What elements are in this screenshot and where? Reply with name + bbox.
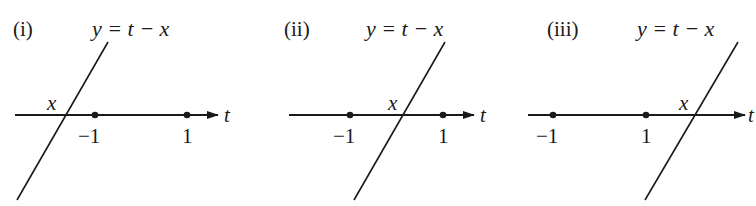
panel-label: (iii)	[547, 17, 579, 41]
equation-label: y = t − x	[364, 16, 444, 41]
tick-dot-1	[643, 112, 650, 119]
figure: (i) y = t − x t x −1 1 (ii) y = t − x t …	[0, 0, 756, 206]
tick-label-minus-1: −1	[78, 124, 100, 148]
tick-dot-1	[440, 112, 447, 119]
tick-dot-minus-1	[347, 112, 354, 119]
panel-i: (i) y = t − x t x −1 1	[13, 16, 231, 200]
equation-label: y = t − x	[90, 16, 170, 41]
tick-dot-minus-1	[550, 112, 557, 119]
intersection-label-x: x	[678, 91, 689, 115]
axis-label-t: t	[480, 103, 487, 127]
tick-label-1: 1	[182, 124, 193, 148]
panel-ii: (ii) y = t − x t x −1 1	[284, 16, 487, 200]
tick-label-minus-1: −1	[536, 124, 558, 148]
panel-label: (ii)	[284, 17, 310, 41]
axis-label-t: t	[748, 103, 755, 127]
tick-label-1: 1	[438, 124, 449, 148]
panel-iii: (iii) y = t − x t x −1 1	[528, 16, 755, 200]
intersection-label-x: x	[387, 91, 398, 115]
axis-label-t: t	[224, 103, 231, 127]
line-y-equals-t-minus-x	[645, 42, 738, 200]
tick-label-1: 1	[641, 124, 652, 148]
line-y-equals-t-minus-x	[17, 42, 108, 200]
tick-dot-minus-1	[92, 112, 99, 119]
equation-label: y = t − x	[635, 16, 715, 41]
intersection-label-x: x	[46, 91, 57, 115]
panel-label: (i)	[13, 17, 33, 41]
tick-dot-1	[184, 112, 191, 119]
line-y-equals-t-minus-x	[354, 42, 445, 200]
tick-label-minus-1: −1	[333, 124, 355, 148]
